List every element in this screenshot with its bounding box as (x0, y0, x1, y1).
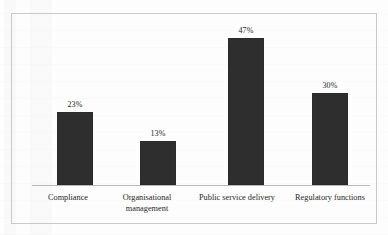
bar-group-regulatory-functions: 30% (312, 20, 348, 185)
bar-value-label: 13% (151, 129, 166, 139)
bar-value-label: 23% (68, 100, 83, 110)
bar-group-compliance: 23% (57, 20, 93, 185)
category-label-organisational-management: Organisational management (101, 192, 193, 214)
bar-rect (228, 38, 264, 185)
x-axis-line (32, 185, 370, 186)
scanned-page: 23% 13% 47% 30% Compliance Organisationa… (0, 0, 388, 235)
category-label-regulatory-functions: Regulatory functions (284, 192, 376, 203)
bar-rect (140, 141, 176, 185)
bar-value-label: 47% (239, 26, 254, 36)
chart-frame: 23% 13% 47% 30% Compliance Organisationa… (11, 13, 377, 224)
bar-value-label: 30% (323, 81, 338, 91)
bar-group-public-service-delivery: 47% (228, 20, 264, 185)
bar-group-organisational-management: 13% (140, 20, 176, 185)
category-axis-labels: Compliance Organisational management Pub… (12, 192, 378, 222)
category-label-compliance: Compliance (23, 192, 113, 203)
category-label-public-service-delivery: Public service delivery (188, 192, 286, 203)
plot-area: 23% 13% 47% 30% (33, 20, 371, 185)
bar-rect (312, 93, 348, 185)
bar-rect (57, 112, 93, 185)
